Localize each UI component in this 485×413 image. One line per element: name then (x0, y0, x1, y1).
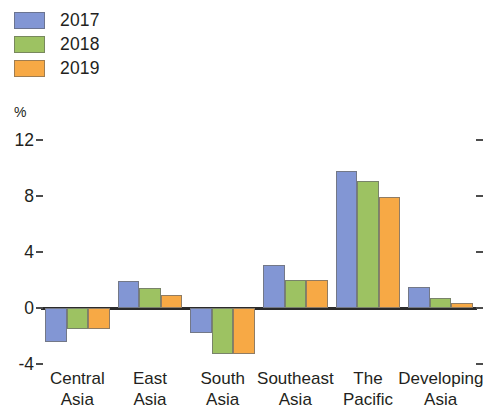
y-axis-tick-mark (476, 363, 483, 365)
y-axis-tick-label: 8 (24, 186, 34, 207)
bar (233, 308, 255, 354)
y-axis-tick-mark (36, 307, 43, 309)
y-axis-tick-label: -4 (18, 354, 34, 375)
x-axis-category-line: Asia (398, 389, 483, 410)
bar (306, 280, 328, 308)
y-axis-tick-mark (36, 363, 43, 365)
bar (190, 308, 212, 333)
bar (88, 308, 110, 329)
y-axis-tick-label: 0 (24, 298, 34, 319)
bar (161, 295, 183, 308)
y-axis-tick-label: 4 (24, 242, 34, 263)
x-axis-category-line: Developing (398, 368, 483, 389)
bar (451, 303, 473, 308)
y-axis-tick-mark (36, 195, 43, 197)
y-axis-tick-mark (476, 251, 483, 253)
bar (118, 281, 140, 308)
bar (408, 287, 430, 308)
bar (212, 308, 234, 354)
y-axis-tick-mark (476, 195, 483, 197)
bar-chart-plot-area: 12840-4CentralAsiaEastAsiaSouthAsiaSouth… (0, 0, 485, 413)
y-axis-tick-mark (36, 251, 43, 253)
bar (45, 308, 67, 342)
bar (336, 171, 358, 308)
y-axis-tick-mark (476, 139, 483, 141)
y-axis-tick-mark (476, 307, 483, 309)
y-axis-tick-mark (36, 139, 43, 141)
bar (430, 298, 452, 308)
bar (139, 288, 161, 308)
x-axis-category-label: DevelopingAsia (398, 368, 483, 410)
bar (67, 308, 89, 329)
y-axis-tick-label: 12 (15, 130, 34, 151)
bar (357, 181, 379, 308)
bar (263, 265, 285, 308)
bar (379, 197, 401, 308)
bar (285, 280, 307, 308)
